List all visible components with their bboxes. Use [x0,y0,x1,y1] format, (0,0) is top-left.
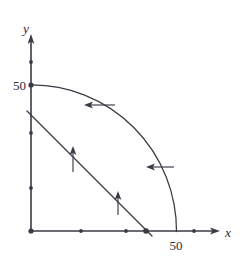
straight-line-curve [27,111,152,236]
figure-container: y 50 x 50 [0,0,240,264]
y-axis-tick-dot [29,186,33,190]
y-axis-tick-dot [29,131,33,135]
x-axis-tick-dot [192,229,196,233]
math-figure-svg: y 50 x 50 [0,0,240,264]
y-axis-tick-dot [29,60,33,64]
y-axis-label: y [21,21,29,36]
straight-line-group [27,111,152,236]
x-axis-tick-dot [124,229,128,233]
y-axis-group: y 50 [13,21,34,234]
x-axis-tick-dot-line-intercept [143,228,149,234]
circle-arc-curve [31,85,177,232]
x-axis-tick-dot [79,229,83,233]
x-axis-tick-label-50: 50 [170,238,183,253]
circle-arc-group [31,85,177,232]
line-direction-arrow-lower [115,191,122,215]
x-axis-group: x 50 [31,225,231,253]
x-axis-label: x [224,225,231,240]
y-axis-tick-label-50: 50 [13,78,26,93]
